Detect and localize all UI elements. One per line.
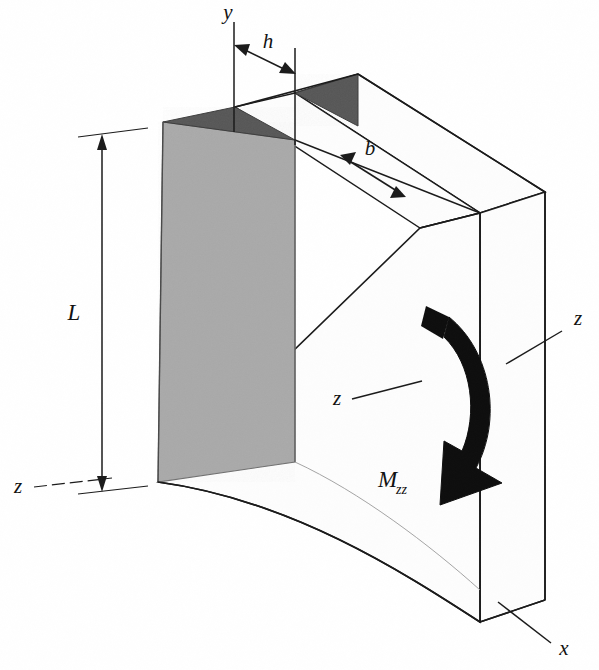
figure-canvas: L h y b M zz z z z x xyxy=(0,0,599,670)
scan-texture-overlay xyxy=(0,0,599,670)
beam-diagram-svg: L h y b M zz z z z x xyxy=(0,0,599,670)
